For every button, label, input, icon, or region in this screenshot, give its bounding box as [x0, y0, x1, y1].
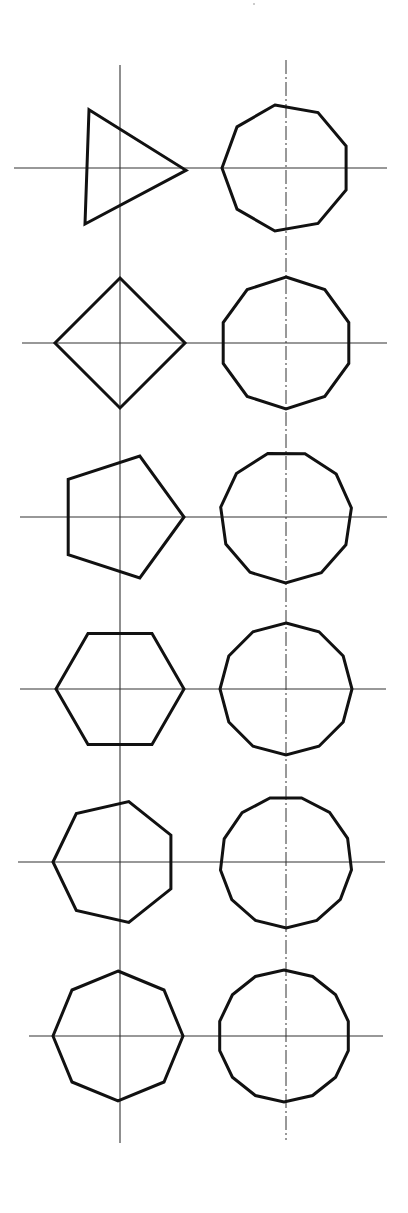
scan-speck	[253, 3, 255, 5]
polygon-shapes	[53, 105, 352, 1102]
polygon-diagram	[0, 0, 408, 1213]
polygon-3-sides	[85, 110, 186, 224]
